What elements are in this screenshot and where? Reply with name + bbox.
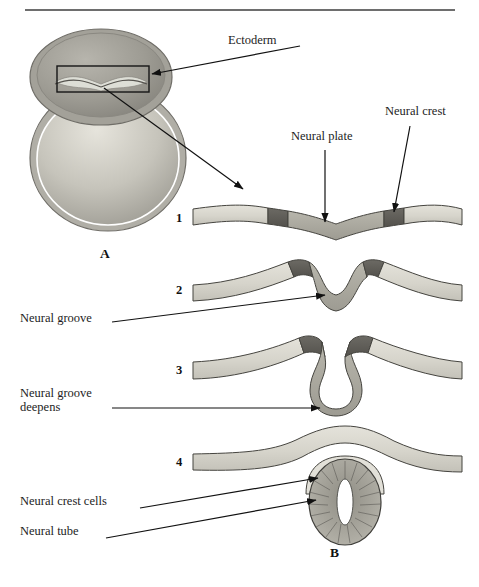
stage1-ectoderm-right [404, 205, 462, 225]
stage-number-1: 1 [176, 211, 182, 226]
label-neural-groove: Neural groove [20, 311, 92, 326]
label-neural-groove-deepens-line1: Neural groove [20, 386, 92, 401]
stage2-ectoderm-left [193, 262, 294, 301]
stage-4-section [193, 426, 462, 545]
stage-3-section [193, 336, 462, 416]
stage2-neural-plate-groove [309, 262, 367, 311]
stage3-ectoderm-left [193, 338, 304, 379]
stage1-ectoderm-left [193, 205, 268, 225]
label-neural-groove-deepens-line2: deepens [20, 400, 60, 415]
panel-letter-b: B [330, 545, 339, 561]
stage-number-3: 3 [176, 363, 182, 378]
label-ectoderm: Ectoderm [228, 33, 277, 48]
label-neural-plate: Neural plate [291, 129, 352, 144]
leader-neural-crest-cells [140, 478, 318, 508]
leader-neural-crest [394, 126, 410, 212]
stage3-ectoderm-right [368, 338, 462, 379]
label-neural-tube: Neural tube [20, 524, 79, 539]
leader-neural-groove [112, 295, 325, 322]
leader-ectoderm [152, 46, 300, 74]
stage-1-section [193, 205, 462, 240]
figure-neurulation: Ectoderm Neural plate Neural crest Neura… [0, 0, 479, 587]
stage1-left-crest [268, 208, 288, 227]
stage-number-4: 4 [176, 455, 182, 470]
leader-neural-tube [106, 500, 316, 538]
stage1-neural-plate [288, 211, 384, 240]
embryo-upper-body [37, 33, 165, 117]
panel-letter-a: A [100, 246, 110, 262]
stage4-neural-tube-lumen [337, 479, 353, 525]
stage-number-2: 2 [176, 283, 182, 298]
label-neural-crest-cells: Neural crest cells [20, 494, 107, 509]
stage-2-section [193, 260, 462, 311]
stage2-ectoderm-right [378, 262, 462, 301]
label-neural-crest: Neural crest [385, 104, 446, 119]
